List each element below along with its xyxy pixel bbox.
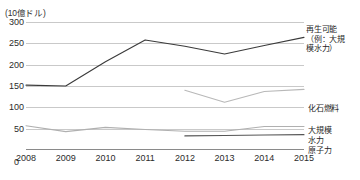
series-label-nuclear: 原子力 <box>308 146 331 156</box>
y-axis-tick-100: 100 <box>9 102 24 112</box>
series-lines <box>26 22 304 150</box>
y-axis-ticks: 30025020015010050 <box>0 22 24 150</box>
chart-container: (10億ドル) 30025020015010050 0 200820092010… <box>0 0 360 180</box>
x-axis-tick-2012: 2012 <box>175 153 195 163</box>
series-line-原子力 <box>185 135 304 136</box>
x-axis-tick-2010: 2010 <box>95 153 115 163</box>
series-label-renewable-line2: （例：大規 <box>306 35 345 44</box>
x-axis-tick-2013: 2013 <box>215 153 235 163</box>
series-label-hydro-line2: 水力 <box>308 136 324 146</box>
y-axis-tick-50: 50 <box>14 124 24 134</box>
x-axis-tick-2009: 2009 <box>56 153 76 163</box>
y-axis-tick-200: 200 <box>9 60 24 70</box>
series-label-fossil-fuel: 化石燃料 <box>308 104 339 114</box>
y-axis-tick-300: 300 <box>9 17 24 27</box>
plot-area <box>26 22 304 150</box>
series-label-hydro-line1: 大規模 <box>308 126 331 136</box>
y-axis-tick-150: 150 <box>9 81 24 91</box>
x-axis-tick-2011: 2011 <box>135 153 154 163</box>
x-axis-tick-2014: 2014 <box>254 153 274 163</box>
series-line-化石燃料 <box>185 89 304 102</box>
series-label-renewable-line3: 模水力） <box>306 44 337 53</box>
x-axis-tick-2008: 2008 <box>16 153 36 163</box>
series-label-renewable: 再生可能 （例：大規 模水力） <box>306 25 345 54</box>
y-axis-tick-250: 250 <box>9 38 24 48</box>
series-label-renewable-line1: 再生可能 <box>306 25 337 34</box>
series-line-再生可能（例：大規模水力） <box>26 37 304 86</box>
series-line-大規模水力 <box>26 126 304 132</box>
